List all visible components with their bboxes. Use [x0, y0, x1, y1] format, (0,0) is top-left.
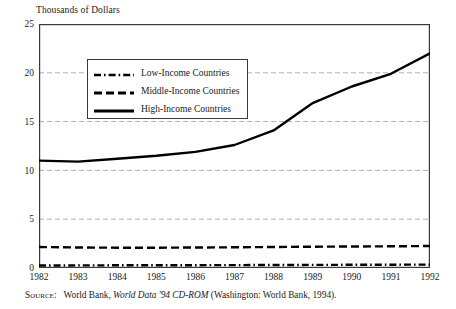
source-title: World Data '94 CD-ROM: [113, 290, 208, 300]
source-label: Source:: [25, 290, 56, 300]
x-tick-label: 1983: [56, 272, 100, 282]
y-tick-label: 5: [4, 214, 34, 224]
x-tick-label: 1984: [95, 272, 139, 282]
chart-axis-title: Thousands of Dollars: [36, 5, 120, 15]
legend-swatch-solid-icon: [94, 103, 134, 115]
x-tick-label: 1991: [369, 272, 413, 282]
y-tick-label: 10: [4, 166, 34, 176]
chart-figure: Thousands of Dollars 25 20 15 10 5 0: [0, 0, 456, 309]
legend-label: Low-Income Countries: [141, 67, 229, 79]
legend-label: Middle-Income Countries: [141, 85, 239, 97]
x-tick-label: 1989: [291, 272, 335, 282]
chart-legend: Low-Income Countries Middle-Income Count…: [87, 59, 248, 119]
x-tick-label: 1992: [408, 272, 452, 282]
legend-swatch-dash-dot-icon: [94, 67, 134, 79]
x-tick-label: 1986: [173, 272, 217, 282]
legend-item-high-income: High-Income Countries: [94, 100, 231, 118]
legend-item-low-income: Low-Income Countries: [94, 64, 229, 82]
series-middle-income: [39, 246, 430, 248]
x-tick-label: 1985: [134, 272, 178, 282]
y-tick-label: 15: [4, 117, 34, 127]
legend-label: High-Income Countries: [141, 103, 231, 115]
legend-item-middle-income: Middle-Income Countries: [94, 82, 239, 100]
plot-area: Low-Income Countries Middle-Income Count…: [39, 24, 430, 268]
source-publisher: World Bank,: [63, 290, 110, 300]
x-tick-label: 1990: [330, 272, 374, 282]
x-tick-label: 1987: [213, 272, 257, 282]
series-low-income: [39, 265, 430, 266]
y-tick-label: 25: [4, 19, 34, 29]
source-note: Source:World Bank, World Data '94 CD-ROM…: [25, 290, 336, 300]
source-detail: (Washington: World Bank, 1994).: [211, 290, 337, 300]
x-tick-label: 1982: [17, 272, 61, 282]
legend-swatch-dashed-icon: [94, 85, 134, 97]
y-tick-label: 20: [4, 68, 34, 78]
x-tick-label: 1988: [252, 272, 296, 282]
